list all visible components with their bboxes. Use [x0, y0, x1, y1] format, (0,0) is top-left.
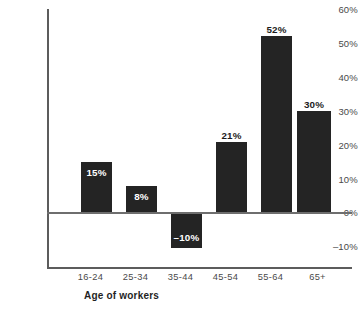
bar-label-35-44: –10% [167, 232, 206, 243]
bar-45-54 [216, 142, 247, 213]
bar-label-16-24: 15% [81, 167, 112, 178]
bar-label-25-34: 8% [126, 191, 157, 202]
x-axis-title: Age of workers [84, 290, 159, 301]
zero-baseline [47, 212, 352, 214]
bar-55-64 [261, 36, 292, 213]
plot-area: 15% 8% –10% 21% 52% 30% [49, 0, 352, 270]
x-tick-label-65plus: 65+ [290, 272, 345, 283]
bar-label-45-54: 21% [216, 130, 247, 141]
bar-65plus [297, 111, 331, 213]
bar-label-55-64: 52% [261, 24, 292, 35]
bar-label-65plus: 30% [297, 99, 331, 110]
bar-chart: 60% 50% 40% 30% 20% 10% 0% –10% 15% 8% –… [0, 0, 358, 311]
x-axis-line [47, 267, 352, 269]
